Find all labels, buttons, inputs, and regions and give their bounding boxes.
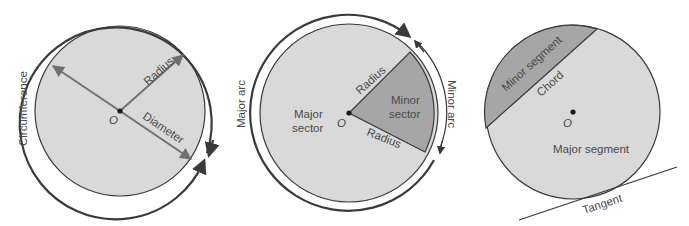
diagram-segments: O Minor segment Chord Major segment Tang… xyxy=(485,25,677,220)
center-label-2: O xyxy=(337,117,346,129)
major-segment-label: Major segment xyxy=(553,143,630,155)
major-sector-line2: sector xyxy=(292,122,323,134)
diagram-arcs-and-sectors: O Radius Radius Major sector Minor secto… xyxy=(235,15,458,211)
minor-arc-head-top xyxy=(415,41,424,52)
minor-sector-line1: Minor xyxy=(391,94,420,106)
center-point-2 xyxy=(346,110,351,115)
center-label: O xyxy=(109,114,118,126)
major-sector-line1: Major xyxy=(294,108,323,120)
circle-diagrams: O Radius Diameter Circumference O Radius… xyxy=(0,0,689,226)
minor-sector-line2: sector xyxy=(389,108,420,120)
center-point xyxy=(117,108,122,113)
circumference-label: Circumference xyxy=(17,71,29,146)
center-point-3 xyxy=(570,109,575,114)
diagram-circle-parts: O Radius Diameter Circumference xyxy=(17,26,213,219)
major-arc-label: Major arc xyxy=(235,80,247,128)
center-label-3: O xyxy=(563,117,572,129)
minor-arc-label: Minor arc xyxy=(446,80,458,128)
